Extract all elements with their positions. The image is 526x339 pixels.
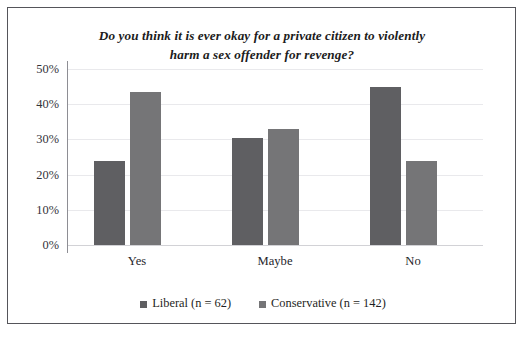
chart-title-line-2: harm a sex offender for revenge? [170,47,354,62]
chart-title: Do you think it is ever okay for a priva… [42,26,482,64]
y-tick-label-10: 10% [36,203,59,218]
x-axis-label-maybe: Maybe [215,254,335,269]
bar-group-no: No [344,69,482,245]
bar-group-maybe: Maybe [206,69,344,245]
x-axis-label-yes: Yes [77,254,197,269]
chart-legend: Liberal (n = 62) Conservative (n = 142) [0,296,526,311]
gridline-0-baseline: 0% [68,245,483,246]
y-tick-label-50: 50% [36,62,59,77]
legend-swatch-icon-conservative [259,301,266,308]
bar-no-conservative[interactable] [406,161,437,245]
bar-group-yes: Yes [68,69,206,245]
y-tick-label-20: 20% [36,168,59,183]
bar-maybe-liberal[interactable] [232,138,263,245]
plot-area: 50% 40% 30% 20% 10% 0% Yes Maybe No [68,69,483,245]
chart-title-line-1: Do you think it is ever okay for a priva… [99,28,425,43]
bar-no-liberal[interactable] [370,87,401,245]
bar-maybe-conservative[interactable] [268,129,299,245]
legend-swatch-icon-liberal [140,301,147,308]
y-tick-label-0: 0% [42,238,59,253]
legend-item-conservative[interactable]: Conservative (n = 142) [259,296,386,311]
bar-yes-conservative[interactable] [130,92,161,245]
legend-label-liberal: Liberal (n = 62) [152,296,231,311]
bar-yes-liberal[interactable] [94,161,125,245]
legend-item-liberal[interactable]: Liberal (n = 62) [140,296,231,311]
y-tick-label-40: 40% [36,97,59,112]
y-tick-label-30: 30% [36,132,59,147]
x-axis-label-no: No [353,254,473,269]
legend-label-conservative: Conservative (n = 142) [271,296,386,311]
